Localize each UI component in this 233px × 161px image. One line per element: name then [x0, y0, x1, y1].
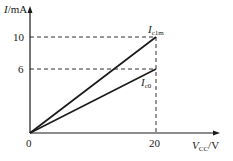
x-axis-arrow-icon	[213, 131, 220, 136]
y-tick-10: 10	[13, 31, 25, 43]
x-tick-20: 20	[149, 137, 161, 149]
y-axis-label: I/mA	[3, 3, 27, 15]
x-axis-label: VCC/V	[192, 139, 219, 153]
chart: I/mA 10 6 0 20 VCC/V Ic1m Ic0	[0, 0, 233, 161]
y-tick-6: 6	[18, 63, 24, 75]
series-ic0-line	[30, 69, 156, 133]
series-ic1m-line	[30, 37, 156, 133]
origin-label: 0	[26, 137, 32, 149]
series-ic1m-label: Ic1m	[147, 23, 164, 37]
y-axis-arrow-icon	[28, 6, 33, 13]
series-ic0-label: Ic0	[140, 76, 152, 90]
